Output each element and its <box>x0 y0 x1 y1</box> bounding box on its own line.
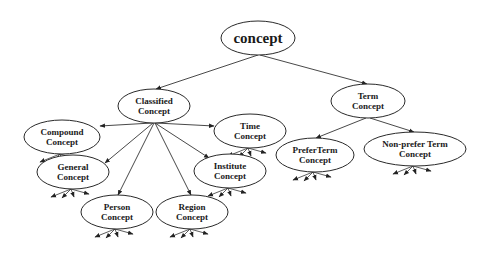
node-compound: CompoundConcept <box>24 120 100 154</box>
stub-arrow-general-2 <box>71 189 74 197</box>
node-classified: ClassifiedConcept <box>118 89 190 123</box>
edge-classified-to-time <box>156 123 214 126</box>
stub-arrow-person-2 <box>115 229 118 237</box>
node-label: PreferTerm <box>293 145 338 155</box>
stub-arrow-preferterm-3 <box>313 172 331 177</box>
node-nonprefer: Non-prefer TermConcept <box>364 132 466 166</box>
node-label: Institute <box>214 161 247 171</box>
stub-arrow-nonprefer-2 <box>413 166 416 174</box>
stub-arrow-person-3 <box>115 229 133 234</box>
stub-arrow-person-1 <box>106 229 115 238</box>
stub-arrow-preferterm-1 <box>304 172 313 181</box>
edge-concept-to-term <box>260 55 367 84</box>
nodes: conceptClassifiedConceptTermConceptCompo… <box>24 21 466 229</box>
node-person: PersonConcept <box>81 195 153 229</box>
stub-arrow-time-2 <box>248 148 251 156</box>
stub-arrow-general-3 <box>71 189 89 194</box>
node-label: Compound <box>40 127 83 137</box>
node-label: Concept <box>234 131 266 141</box>
node-label: Term <box>358 91 379 101</box>
edge-term-to-nonprefer <box>370 118 414 132</box>
node-general: GeneralConcept <box>37 155 109 189</box>
stub-arrow-general-1 <box>62 189 71 198</box>
node-term: TermConcept <box>331 84 405 118</box>
stub-arrow-nonprefer-0 <box>393 166 413 174</box>
node-institute: InstituteConcept <box>194 154 266 188</box>
concept-hierarchy-diagram: conceptClassifiedConceptTermConceptCompo… <box>0 0 491 255</box>
stub-arrow-person-0 <box>95 229 115 237</box>
node-label: Concept <box>101 212 133 222</box>
node-label: Non-prefer Term <box>382 139 448 149</box>
stub-arrow-nonprefer-1 <box>404 166 413 175</box>
node-label: Concept <box>299 155 331 165</box>
edge-classified-to-compound <box>100 123 152 126</box>
stub-arrow-institute-1 <box>219 188 228 197</box>
stub-arrow-institute-0 <box>208 188 228 196</box>
node-label: concept <box>233 30 282 46</box>
node-label: Region <box>179 202 206 212</box>
node-preferterm: PreferTermConcept <box>276 138 354 172</box>
stub-arrow-region-1 <box>181 229 190 238</box>
node-label: Concept <box>176 212 208 222</box>
node-label: Person <box>104 202 131 212</box>
stub-arrow-region-2 <box>190 229 193 237</box>
node-label: Concept <box>46 137 78 147</box>
edge-term-to-preferterm <box>316 118 366 138</box>
edge-classified-to-general <box>105 123 153 163</box>
edge-classified-to-institute <box>155 123 209 158</box>
node-label: Concept <box>138 106 170 116</box>
node-label: Concept <box>352 101 384 111</box>
stub-arrow-nonprefer-3 <box>413 166 431 171</box>
stub-arrow-institute-2 <box>228 188 231 196</box>
node-concept: concept <box>221 21 295 55</box>
node-label: Concept <box>57 172 89 182</box>
node-label: Classified <box>135 96 173 106</box>
node-label: Concept <box>214 171 246 181</box>
node-region: RegionConcept <box>156 195 228 229</box>
edge-concept-to-classified <box>156 55 258 89</box>
stub-arrow-institute-3 <box>228 188 246 193</box>
edge-classified-to-region <box>155 123 191 195</box>
stub-arrow-preferterm-2 <box>313 172 316 180</box>
edge-classified-to-person <box>118 123 154 195</box>
node-label: Concept <box>399 149 431 159</box>
node-label: General <box>58 162 89 172</box>
node-time: TimeConcept <box>214 114 286 148</box>
stub-arrow-preferterm-0 <box>293 172 313 180</box>
stub-arrow-time-3 <box>248 148 266 153</box>
stub-arrow-region-0 <box>170 229 190 237</box>
stub-arrow-general-0 <box>51 189 71 197</box>
node-label: Time <box>240 121 260 131</box>
stub-arrow-region-3 <box>190 229 208 234</box>
